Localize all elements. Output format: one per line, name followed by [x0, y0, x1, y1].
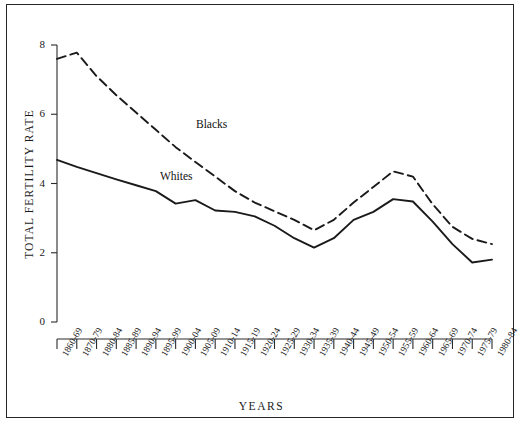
y-tick-label-6: 6 [23, 107, 45, 119]
x-axis-title: YEARS [0, 400, 523, 412]
series-line-whites [57, 160, 492, 262]
series-label-whites: Whites [160, 170, 193, 182]
y-axis-ticks [51, 45, 57, 322]
axis-lines [57, 45, 492, 339]
y-tick-label-2: 2 [23, 246, 45, 258]
series-label-blacks: Blacks [196, 118, 227, 130]
y-tick-label-8: 8 [23, 38, 45, 50]
data-series-group [57, 53, 492, 263]
y-tick-label-0: 0 [23, 315, 45, 327]
chart-plot-area [0, 0, 523, 428]
figure-container: TOTAL FERTILITY RATE YEARS 02468 1860-69… [0, 0, 523, 428]
y-tick-label-4: 4 [23, 177, 45, 189]
